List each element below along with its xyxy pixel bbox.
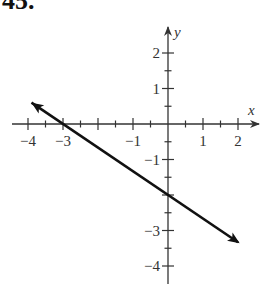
y-tick-label: −4 (144, 258, 160, 274)
axis-ticks (28, 53, 238, 266)
x-tick-label: 1 (199, 133, 207, 149)
y-tick-label: 2 (153, 45, 161, 61)
y-axis-label: y (172, 24, 181, 40)
x-axis-label: x (247, 102, 255, 118)
y-tick-label: 1 (153, 81, 161, 97)
x-tick-label: −1 (125, 133, 141, 149)
y-tick-label: −1 (144, 152, 160, 168)
tick-labels: −4−3−11221−1−3−4 (20, 45, 242, 274)
y-tick-label: −3 (144, 223, 160, 239)
coordinate-plane: −4−3−11221−1−3−4 x y (0, 0, 263, 284)
x-tick-label: −3 (55, 133, 71, 149)
arrow-head-icon (32, 103, 45, 114)
x-tick-label: 2 (234, 133, 242, 149)
x-tick-label: −4 (20, 133, 36, 149)
